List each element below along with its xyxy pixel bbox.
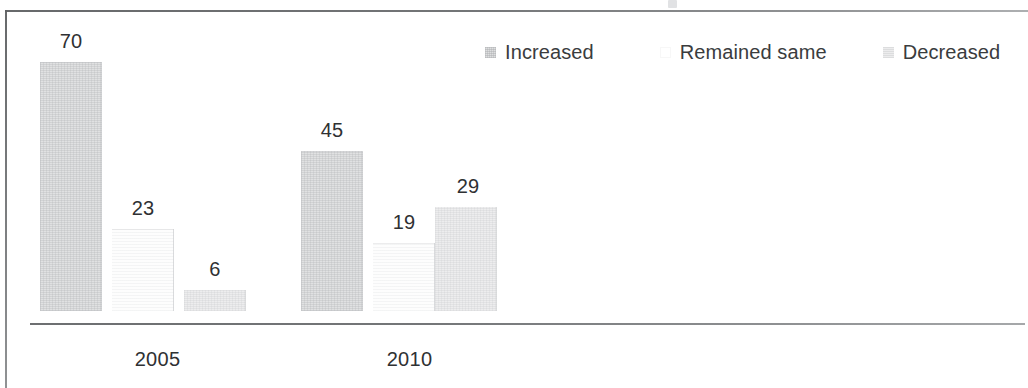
- bar-2010-remained-same[interactable]: [373, 243, 435, 311]
- data-label-2005-increased: 70: [40, 30, 102, 53]
- category-label-2005: 2005: [100, 348, 215, 371]
- bar-2005-decreased[interactable]: [184, 290, 246, 311]
- bar-fill: [435, 207, 497, 311]
- legend-label-increased: Increased: [505, 41, 594, 64]
- legend-item-remained-same[interactable]: Remained same: [660, 41, 827, 64]
- legend-item-decreased[interactable]: Decreased: [883, 41, 1001, 64]
- legend-label-remained-same: Remained same: [680, 41, 827, 64]
- data-label-2005-remained-same: 23: [112, 197, 174, 220]
- data-label-2010-increased: 45: [301, 119, 363, 142]
- legend-swatch-icon: [883, 47, 894, 58]
- category-axis-line: [30, 323, 1025, 325]
- bar-fill: [301, 151, 363, 311]
- legend-item-increased[interactable]: Increased: [485, 41, 594, 64]
- bar-fill: [40, 62, 102, 311]
- legend-label-decreased: Decreased: [903, 41, 1001, 64]
- data-label-2005-decreased: 6: [184, 258, 246, 281]
- bar-2005-increased[interactable]: [40, 62, 102, 311]
- legend-swatch-icon: [485, 47, 496, 58]
- bar-fill: [373, 243, 435, 311]
- clipped-title-artifact: [668, 0, 677, 8]
- data-label-2010-decreased: 29: [437, 175, 499, 198]
- bar-2005-remained-same[interactable]: [112, 229, 174, 311]
- bar-2010-decreased[interactable]: [435, 207, 497, 311]
- category-label-2010: 2010: [352, 348, 467, 371]
- bar-fill: [184, 290, 246, 311]
- bar-chart-figure: 70 23 6 2005 45 19 29 2010 Increased: [0, 0, 1028, 388]
- bar-fill: [112, 229, 174, 311]
- legend-swatch-icon: [660, 47, 671, 58]
- chart-legend: Increased Remained same Decreased: [485, 38, 1000, 66]
- data-label-2010-remained-same: 19: [373, 211, 435, 234]
- plot-area: 70 23 6 2005 45 19 29 2010 Increased: [7, 12, 1026, 388]
- bar-2010-increased[interactable]: [301, 151, 363, 311]
